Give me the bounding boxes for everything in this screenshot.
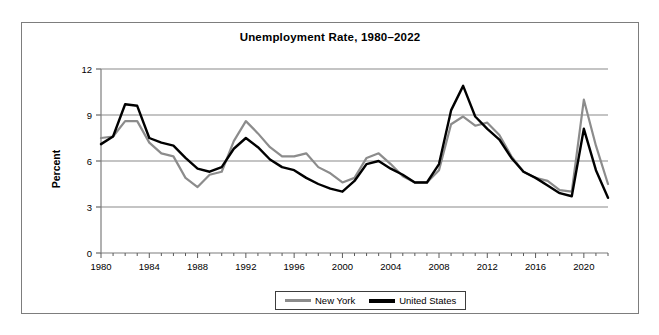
chart-legend: New York United States [275,291,466,310]
y-axis-tick-label: 9 [87,110,92,121]
x-axis-tick-label: 1984 [139,261,160,272]
legend-label-new-york: New York [315,295,355,306]
x-axis-tick-marks [101,253,608,258]
legend-label-united-states: United States [399,295,456,306]
x-axis-tick-label: 1988 [187,261,208,272]
x-axis-tick-label: 1996 [284,261,305,272]
x-axis-tick-label: 1980 [90,261,111,272]
series-lines [101,86,608,198]
legend-item-new-york: New York [285,295,355,306]
chart-plot-area: Percent 036912 1980198419881992199620002… [22,23,640,315]
x-axis-tick-labels: 1980198419881992199620002004200820122016… [90,261,594,272]
y-axis-title: Percent [50,149,62,188]
x-axis-tick-label: 2020 [573,261,594,272]
x-axis-tick-label: 2000 [332,261,353,272]
y-axis-tick-labels: 036912 [81,64,92,259]
legend-item-united-states: United States [369,295,456,306]
x-axis-tick-label: 1992 [235,261,256,272]
x-axis-tick-label: 2008 [428,261,449,272]
chart-frame: Unemployment Rate, 1980–2022 Percent 036… [21,22,639,314]
y-axis-tick-label: 12 [81,64,92,75]
y-axis-tick-label: 3 [87,202,92,213]
legend-swatch-new-york [285,299,311,302]
x-axis-tick-label: 2016 [525,261,546,272]
x-axis-tick-label: 2004 [380,261,401,272]
series-line-new-york [101,100,608,192]
x-axis-tick-label: 2012 [477,261,498,272]
series-line-united-states [101,86,608,198]
gridlines [101,69,608,207]
y-axis-tick-marks [96,69,101,253]
legend-swatch-united-states [369,299,395,303]
y-axis-tick-label: 0 [87,248,92,259]
y-axis-tick-label: 6 [87,156,92,167]
